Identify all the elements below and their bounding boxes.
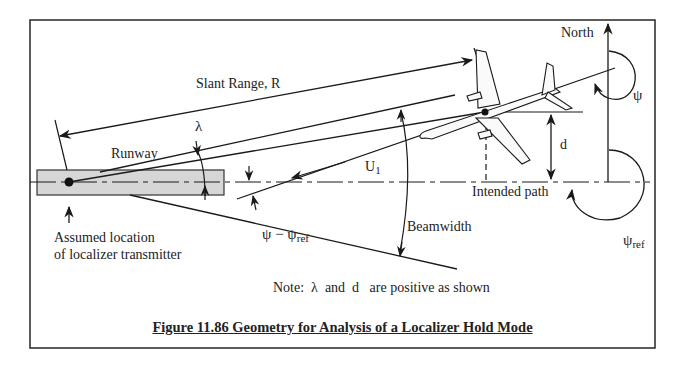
u1-main: U xyxy=(365,159,375,174)
psi-ref-sub: ref xyxy=(632,238,644,250)
psi-label: ψ xyxy=(633,87,642,103)
psi-minus-psi-ref-label: ψ − ψref xyxy=(262,226,309,243)
figure-caption: Figure 11.86 Geometry for Analysis of a … xyxy=(0,319,685,336)
u1-velocity-arrow xyxy=(292,162,345,178)
psi-diff-arrow-bottom xyxy=(253,196,256,210)
north-label: North xyxy=(561,25,594,41)
assumed-location-line1: Assumed location xyxy=(54,230,155,246)
slant-range-label: Slant Range, R xyxy=(196,76,280,92)
psi-angle-arc xyxy=(595,51,635,99)
intended-path-label: Intended path xyxy=(472,184,549,200)
psi-ref-main: ψ xyxy=(623,232,632,248)
psi-minus-sub: ref xyxy=(297,232,309,244)
runway-label: Runway xyxy=(111,146,158,162)
d-label: d xyxy=(560,137,567,153)
assumed-location-line2: of localizer transmitter xyxy=(54,247,182,263)
aircraft-cg-dot xyxy=(482,109,489,116)
aircraft-icon xyxy=(420,50,572,164)
lambda-label: λ xyxy=(195,118,202,134)
slant-range-tick-left xyxy=(55,120,67,170)
u1-sub: 1 xyxy=(375,164,381,176)
lambda-arrow-top xyxy=(196,141,198,155)
psi-minus-main: ψ − ψ xyxy=(262,226,297,242)
psi-ref-label: ψref xyxy=(623,232,645,249)
beamwidth-label: Beamwidth xyxy=(407,219,472,235)
localizer-geometry-diagram xyxy=(0,0,685,366)
u1-label: U1 xyxy=(365,159,381,175)
sign-convention-note: Note: λ and d are positive as shown xyxy=(273,280,490,296)
